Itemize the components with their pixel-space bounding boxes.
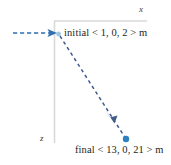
initial-point-marker [56,32,61,37]
initial-position-label: initial < 1, 0, 2 > m [64,28,147,39]
final-position-label: final < 13, 0, 21 > m [75,145,164,156]
incoming-dashed-arrow [13,29,57,37]
physics-vector-diagram: x z initial < 1, 0, 2 > m final < 13, 0,… [0,0,171,165]
diagram-canvas [0,0,171,165]
final-point-marker [123,136,129,142]
displacement-arrow-shaft [60,36,126,139]
displacement-dashed-arrow [60,36,126,139]
axis-lines [54,21,147,143]
x-axis-label: x [139,5,143,14]
z-axis-label: z [40,134,44,143]
